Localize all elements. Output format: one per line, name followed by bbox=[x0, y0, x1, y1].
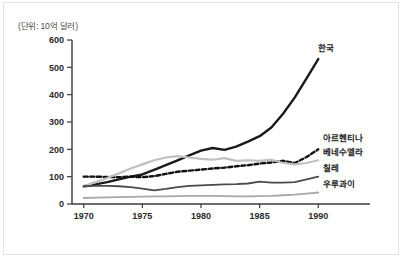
x-tick-label: 1985 bbox=[250, 211, 270, 221]
y-axis: 0100200300400500600 bbox=[49, 35, 72, 209]
series-label-한국: 한국 bbox=[318, 43, 334, 53]
y-tick-label: 100 bbox=[49, 172, 64, 182]
chart-figure: (단위: 10억 달러) 0100200300400500600 1970197… bbox=[0, 0, 402, 257]
series-label-우루과이: 우루과이 bbox=[323, 179, 355, 189]
x-tick-label: 1990 bbox=[308, 211, 328, 221]
series-label-아르헨티나: 아르헨티나 bbox=[323, 133, 363, 143]
x-tick-label: 1980 bbox=[191, 211, 211, 221]
y-tick-label: 0 bbox=[59, 199, 64, 209]
line-chart-plot: 0100200300400500600 19701975198019851990… bbox=[0, 0, 402, 257]
series-layer bbox=[84, 59, 319, 198]
series-label-layer: 한국아르헨티나베네수엘라칠레우루과이 bbox=[318, 43, 363, 189]
series-label-칠레: 칠레 bbox=[323, 163, 339, 173]
y-tick-label: 200 bbox=[49, 145, 64, 155]
y-tick-label: 500 bbox=[49, 63, 64, 73]
y-tick-label: 400 bbox=[49, 90, 64, 100]
y-tick-label: 300 bbox=[49, 117, 64, 127]
series-label-베네수엘라: 베네수엘라 bbox=[323, 147, 363, 157]
x-tick-label: 1970 bbox=[74, 211, 94, 221]
x-tick-label: 1975 bbox=[132, 211, 152, 221]
series-line-한국 bbox=[84, 59, 319, 186]
y-tick-label: 600 bbox=[49, 35, 64, 45]
series-line-우루과이 bbox=[84, 193, 319, 198]
x-axis: 19701975198019851990 bbox=[72, 204, 370, 221]
